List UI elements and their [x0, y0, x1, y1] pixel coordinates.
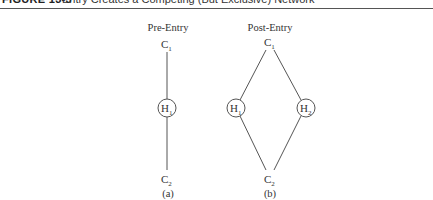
node-c2: C2: [264, 173, 275, 188]
edge-h2-c2: [274, 116, 301, 170]
panel-a-diagram: C1 H1 C2: [158, 38, 176, 188]
node-c2: C2: [161, 173, 172, 188]
panel-a-caption: (a): [162, 188, 174, 199]
node-c1: C1: [264, 36, 275, 51]
edge-c1-h1: [240, 50, 266, 100]
edge-c1-h2: [274, 50, 301, 100]
panel-b-caption: (b): [264, 188, 276, 199]
node-c1: C1: [161, 38, 172, 53]
network-diagram: C1 H1 C2 C1 H1 H2 C2: [0, 0, 433, 200]
panel-b-diagram: C1 H1 H2 C2: [227, 36, 315, 188]
edge-h1-c2: [240, 116, 266, 170]
